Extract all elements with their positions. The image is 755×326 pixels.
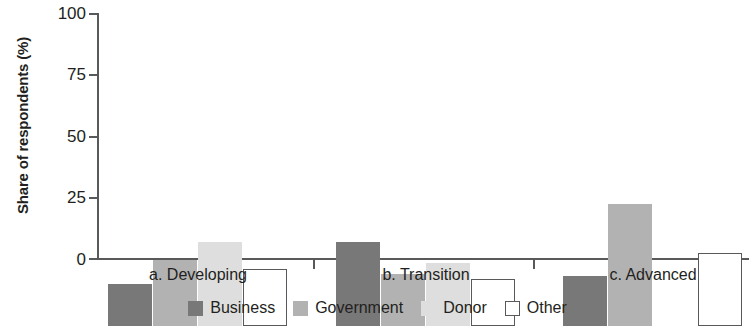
- y-tick-label-50: 50: [10, 127, 86, 147]
- x-axis-label-developing: a. Developing: [108, 266, 288, 284]
- x-axis-label-transition: b. Transition: [336, 266, 516, 284]
- bar-chart-figure: Share of respondents (%) 100 75 50 25 0 …: [0, 0, 755, 326]
- y-tick-label-0: 0: [10, 250, 86, 270]
- legend-label-donor: Donor: [443, 299, 487, 317]
- y-tick-label-100: 100: [10, 4, 86, 24]
- legend-item-business: Business: [188, 299, 275, 317]
- legend-swatch-business-icon: [188, 301, 203, 316]
- y-tick-label-25: 25: [10, 188, 86, 208]
- chart-legend: Business Government Donor Other: [0, 299, 755, 317]
- legend-item-other: Other: [505, 299, 567, 317]
- legend-swatch-government-icon: [293, 301, 308, 316]
- y-tick-label-75: 75: [10, 65, 86, 85]
- legend-label-other: Other: [527, 299, 567, 317]
- bar-group-advanced: [563, 80, 743, 326]
- y-axis-line: [97, 13, 99, 260]
- y-axis-title: Share of respondents (%): [14, 1, 31, 251]
- legend-item-donor: Donor: [421, 299, 487, 317]
- bar-group-developing: [108, 80, 288, 326]
- legend-swatch-other-icon: [505, 301, 520, 316]
- bar-group-transition: [336, 80, 516, 326]
- legend-item-government: Government: [293, 299, 403, 317]
- group-separator-tick-2: [533, 259, 535, 269]
- x-axis-label-advanced: c. Advanced: [563, 266, 743, 284]
- legend-label-government: Government: [315, 299, 403, 317]
- legend-label-business: Business: [210, 299, 275, 317]
- legend-swatch-donor-icon: [421, 301, 436, 316]
- group-separator-tick-1: [313, 259, 315, 269]
